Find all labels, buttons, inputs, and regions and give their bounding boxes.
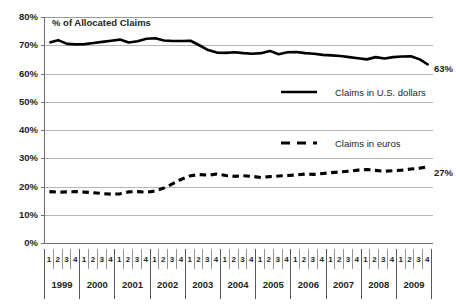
quarter-tick-label: 4 bbox=[211, 249, 220, 269]
eur-end-value-label: 27% bbox=[434, 167, 453, 178]
series-layer bbox=[45, 17, 433, 243]
y-tick-label: 70% bbox=[4, 40, 38, 50]
solid-line-swatch-icon bbox=[281, 86, 317, 98]
y-tick-label: 10% bbox=[4, 210, 38, 220]
quarter-tick-label: 3 bbox=[167, 249, 176, 269]
series-line-eur bbox=[49, 167, 428, 194]
quarter-tick-label: 2 bbox=[158, 249, 167, 269]
quarter-tick-label: 3 bbox=[308, 249, 317, 269]
quarter-tick-label: 4 bbox=[176, 249, 185, 269]
quarter-tick-label: 3 bbox=[378, 249, 387, 269]
quarter-tick-label: 2 bbox=[405, 249, 414, 269]
quarter-tick-label: 1 bbox=[326, 249, 335, 269]
quarter-tick-label: 3 bbox=[62, 249, 71, 269]
quarter-tick-label: 1 bbox=[220, 249, 229, 269]
quarter-tick-label: 1 bbox=[150, 249, 159, 269]
quarter-tick-label: 1 bbox=[290, 249, 299, 269]
chart-container: 80%70%60%50%40%30%20%10%0% % of Allocate… bbox=[0, 0, 456, 307]
year-tick-label: 2005 bbox=[255, 269, 290, 299]
series-line-usd bbox=[49, 38, 428, 65]
quarter-tick-label: 2 bbox=[299, 249, 308, 269]
quarter-tick-label: 1 bbox=[255, 249, 264, 269]
y-tick-label: 60% bbox=[4, 69, 38, 79]
quarter-tick-label: 1 bbox=[114, 249, 123, 269]
year-tick-label: 2006 bbox=[290, 269, 325, 299]
quarter-tick-label: 3 bbox=[343, 249, 352, 269]
year-tick-label: 2002 bbox=[150, 269, 185, 299]
y-tick-label: 50% bbox=[4, 97, 38, 107]
y-tick-label: 20% bbox=[4, 182, 38, 192]
quarter-tick-label: 1 bbox=[185, 249, 194, 269]
quarter-tick-label: 4 bbox=[106, 249, 115, 269]
usd-end-value-label: 63% bbox=[434, 63, 453, 74]
plot-area bbox=[44, 17, 433, 243]
quarter-tick-label: 1 bbox=[79, 249, 88, 269]
year-tick-label: 2004 bbox=[220, 269, 255, 299]
quarter-tick-label: 3 bbox=[132, 249, 141, 269]
y-tick-label: 0% bbox=[4, 238, 38, 248]
dashed-line-swatch-icon bbox=[281, 137, 317, 149]
quarter-tick-label: 2 bbox=[369, 249, 378, 269]
quarter-tick-label: 2 bbox=[194, 249, 203, 269]
year-tick-label: 2007 bbox=[326, 269, 361, 299]
year-tick-label: 2001 bbox=[114, 269, 149, 299]
legend-item-eur: Claims in euros bbox=[281, 137, 400, 149]
quarter-tick-label: 1 bbox=[44, 249, 53, 269]
quarter-tick-band: 1234123412341234123412341234123412341234… bbox=[44, 249, 432, 269]
quarter-tick-label: 3 bbox=[202, 249, 211, 269]
year-tick-label: 2000 bbox=[79, 269, 114, 299]
quarter-tick-label: 2 bbox=[229, 249, 238, 269]
quarter-tick-label: 3 bbox=[413, 249, 422, 269]
y-tick-label: 80% bbox=[4, 12, 38, 22]
y-tick-label: 40% bbox=[4, 125, 38, 135]
x-axis: 1234123412341234123412341234123412341234… bbox=[44, 243, 432, 307]
plot-title: % of Allocated Claims bbox=[52, 17, 151, 28]
year-tick-label: 2009 bbox=[396, 269, 432, 299]
quarter-tick-label: 4 bbox=[282, 249, 291, 269]
y-axis: 80%70%60%50%40%30%20%10%0% bbox=[0, 0, 38, 307]
legend-item-usd: Claims in U.S. dollars bbox=[281, 86, 426, 98]
quarter-tick-label: 1 bbox=[396, 249, 405, 269]
year-tick-band: 1999200020012002200320042005200620072008… bbox=[44, 269, 432, 299]
y-tick-label: 30% bbox=[4, 153, 38, 163]
quarter-tick-label: 4 bbox=[141, 249, 150, 269]
quarter-tick-label: 4 bbox=[422, 249, 432, 269]
quarter-tick-label: 4 bbox=[317, 249, 326, 269]
quarter-tick-label: 3 bbox=[273, 249, 282, 269]
quarter-tick-label: 4 bbox=[387, 249, 396, 269]
year-tick-label: 1999 bbox=[44, 269, 79, 299]
quarter-tick-label: 2 bbox=[88, 249, 97, 269]
legend-label-eur: Claims in euros bbox=[335, 138, 400, 149]
quarter-tick-label: 4 bbox=[352, 249, 361, 269]
year-tick-label: 2003 bbox=[185, 269, 220, 299]
quarter-tick-label: 1 bbox=[361, 249, 370, 269]
quarter-tick-label: 3 bbox=[238, 249, 247, 269]
year-tick-label: 2008 bbox=[361, 269, 396, 299]
quarter-tick-label: 3 bbox=[97, 249, 106, 269]
quarter-tick-label: 4 bbox=[70, 249, 79, 269]
quarter-tick-label: 2 bbox=[334, 249, 343, 269]
quarter-tick-label: 2 bbox=[123, 249, 132, 269]
quarter-tick-label: 2 bbox=[264, 249, 273, 269]
quarter-tick-label: 4 bbox=[246, 249, 255, 269]
quarter-tick-label: 2 bbox=[53, 249, 62, 269]
legend-label-usd: Claims in U.S. dollars bbox=[335, 87, 426, 98]
